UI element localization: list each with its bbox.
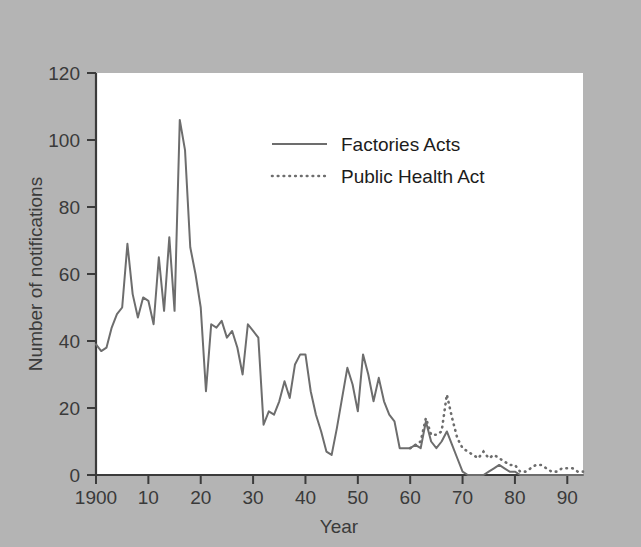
chart-figure: 020406080100120 1900102030405060708090 N… — [0, 0, 641, 547]
y-axis-ticks: 020406080100120 — [48, 63, 96, 486]
legend-label-public-health-act: Public Health Act — [341, 166, 485, 187]
y-tick-label: 20 — [59, 398, 80, 419]
y-tick-label: 0 — [69, 465, 80, 486]
x-tick-label: 40 — [295, 487, 316, 508]
x-tick-label: 80 — [504, 487, 525, 508]
y-tick-label: 60 — [59, 264, 80, 285]
y-tick-label: 40 — [59, 331, 80, 352]
x-tick-label: 1900 — [75, 487, 117, 508]
y-axis-title: Number of notifications — [25, 177, 46, 371]
x-tick-label: 60 — [400, 487, 421, 508]
y-tick-label: 120 — [48, 63, 80, 84]
x-tick-label: 20 — [190, 487, 211, 508]
y-tick-label: 80 — [59, 197, 80, 218]
x-axis-title: Year — [320, 516, 359, 537]
legend-label-factories-acts: Factories Acts — [341, 134, 460, 155]
line-chart: 020406080100120 1900102030405060708090 N… — [0, 0, 641, 547]
x-tick-label: 10 — [138, 487, 159, 508]
y-tick-label: 100 — [48, 130, 80, 151]
x-tick-label: 90 — [557, 487, 578, 508]
x-tick-label: 50 — [347, 487, 368, 508]
x-tick-label: 70 — [452, 487, 473, 508]
x-tick-label: 30 — [243, 487, 264, 508]
x-axis-ticks: 1900102030405060708090 — [75, 475, 578, 508]
